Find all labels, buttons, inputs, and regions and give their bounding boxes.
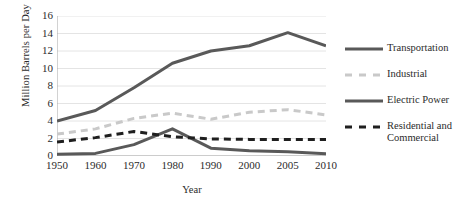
legend-swatch-icon xyxy=(345,95,383,107)
legend-item[interactable]: Electric Power xyxy=(345,94,461,107)
legend-swatch-icon xyxy=(345,69,383,81)
series-line-residential-and-commercial xyxy=(57,132,326,143)
chart-figure: Million Barrels per Day 0246810121416 19… xyxy=(0,0,461,205)
y-tick-label: 12 xyxy=(13,45,53,56)
gridlines xyxy=(57,16,326,156)
y-tick-label: 2 xyxy=(13,133,53,144)
y-axis-tick-labels: 0246810121416 xyxy=(11,16,53,156)
legend-label: Industrial xyxy=(387,68,427,80)
series-line-industrial xyxy=(57,110,326,135)
plot-area xyxy=(57,16,326,156)
y-tick-label: 8 xyxy=(13,80,53,91)
legend-item[interactable]: Industrial xyxy=(345,68,461,81)
legend-swatch-icon xyxy=(345,121,383,133)
series-line-electric-power xyxy=(57,129,326,154)
x-axis-tick-labels: 19501960197019801990200020052010 xyxy=(57,160,326,178)
legend-item[interactable]: Residential and Commercial xyxy=(345,120,461,143)
legend-swatch-icon xyxy=(345,43,383,55)
y-tick-label: 6 xyxy=(13,98,53,109)
y-tick-label: 14 xyxy=(13,28,53,39)
legend-label: Transportation xyxy=(387,42,448,54)
y-tick-label: 4 xyxy=(13,115,53,126)
legend-label: Electric Power xyxy=(387,94,449,106)
plot-svg xyxy=(57,16,326,156)
y-tick-label: 10 xyxy=(13,63,53,74)
x-axis-title: Year xyxy=(57,184,327,195)
y-tick-label: 16 xyxy=(13,10,53,21)
series-line-transportation xyxy=(57,33,326,121)
legend-label: Residential and Commercial xyxy=(387,120,452,143)
chart-legend: TransportationIndustrialElectric PowerRe… xyxy=(345,42,461,156)
legend-item[interactable]: Transportation xyxy=(345,42,461,55)
x-tick-label: 2010 xyxy=(303,160,349,171)
